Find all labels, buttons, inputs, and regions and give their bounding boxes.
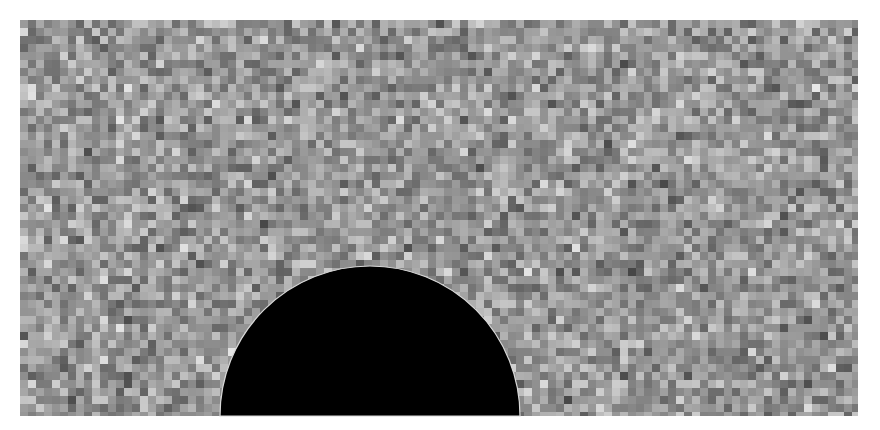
semicircle-overlay — [0, 0, 880, 430]
black-semicircle — [220, 266, 520, 416]
image-stage — [0, 0, 880, 430]
